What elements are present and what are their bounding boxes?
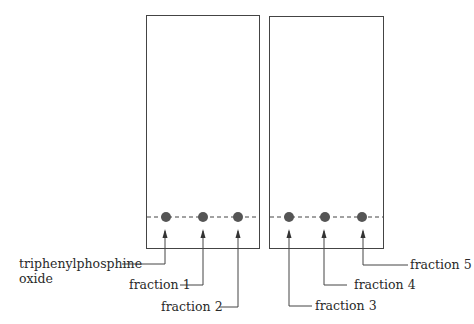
label-tppo-line2: oxide (19, 271, 53, 286)
spot-tppo (161, 212, 171, 222)
label-fraction-1: fraction 1 (129, 277, 191, 292)
label-tppo-line1: triphenylphosphine (19, 256, 142, 271)
label-fraction-3: fraction 3 (315, 298, 377, 313)
leader-fraction-4 (322, 229, 348, 285)
label-fraction-4: fraction 4 (354, 277, 416, 292)
label-fraction-2: fraction 2 (161, 299, 223, 314)
spot-fraction-1 (198, 212, 208, 222)
spot-fraction-2 (233, 212, 243, 222)
spot-fraction-3 (284, 212, 294, 222)
leader-fraction-3 (287, 229, 313, 306)
spot-fraction-5 (357, 212, 367, 222)
label-fraction-5: fraction 5 (410, 257, 472, 272)
leader-fraction-5 (361, 229, 409, 265)
tlc-diagram: triphenylphosphine oxide fraction 1 frac… (0, 0, 474, 324)
spot-fraction-4 (320, 212, 330, 222)
leader-fraction-2 (219, 229, 241, 307)
